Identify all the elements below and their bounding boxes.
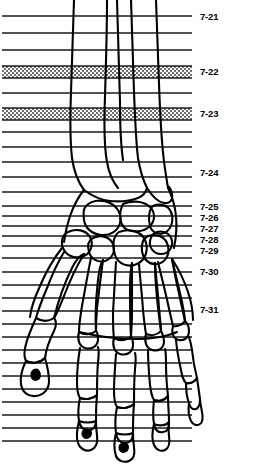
section-label-7-31: 7-31 bbox=[200, 305, 218, 315]
middle-pip-joint bbox=[117, 404, 134, 408]
section-label-7-29: 7-29 bbox=[200, 246, 218, 256]
sesamoid-mark-thumb bbox=[31, 369, 40, 380]
thumb-ip-joint-line bbox=[26, 358, 45, 363]
sesamoid-mark-index bbox=[82, 429, 91, 438]
radius-medial-border bbox=[104, 0, 118, 188]
metacarpal-3 bbox=[113, 262, 132, 340]
ring-proximal-phalanx bbox=[148, 349, 168, 401]
index-middle-phalanx bbox=[78, 395, 97, 430]
middle-dip-joint bbox=[116, 433, 133, 435]
section-label-7-24: 7-24 bbox=[200, 168, 218, 178]
section-label-7-25: 7-25 bbox=[200, 202, 218, 212]
index-pip-joint bbox=[80, 395, 97, 399]
sesamoid-mark-middle bbox=[119, 443, 128, 452]
little-pip-joint bbox=[186, 378, 197, 383]
ring-pip-joint bbox=[154, 396, 168, 401]
section-label-7-22: 7-22 bbox=[200, 67, 218, 77]
section-label-7-30: 7-30 bbox=[200, 267, 218, 277]
band-7-22 bbox=[2, 66, 192, 78]
section-label-7-23: 7-23 bbox=[200, 109, 218, 119]
section-label-7-28: 7-28 bbox=[200, 235, 218, 245]
ulna-lateral-border bbox=[156, 0, 168, 188]
middle-proximal-phalanx bbox=[114, 353, 136, 408]
interosseous-line bbox=[117, 0, 123, 160]
ulna-bone bbox=[131, 0, 147, 188]
distal-radius-articular-surface bbox=[84, 188, 147, 201]
middle-middle-phalanx bbox=[115, 404, 134, 443]
metacarpal-3-medial bbox=[131, 263, 132, 337]
band-7-23 bbox=[2, 108, 192, 120]
section-label-7-26: 7-26 bbox=[200, 213, 218, 223]
hand-section-figure: 7-21 7-22 7-23 7-24 7-25 7-26 7-27 7-28 … bbox=[0, 0, 255, 464]
index-proximal-phalanx bbox=[77, 347, 99, 399]
little-distal-phalanx bbox=[189, 399, 203, 425]
ring-dip-joint bbox=[154, 422, 169, 425]
section-label-7-27: 7-27 bbox=[200, 224, 218, 234]
section-label-7-21: 7-21 bbox=[200, 12, 218, 22]
index-dip-joint bbox=[79, 421, 96, 423]
